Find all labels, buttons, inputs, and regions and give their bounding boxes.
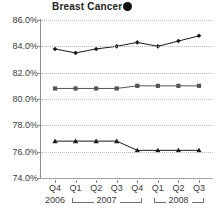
chart-container: Breast Cancer 86.0%84.0%82.0%80.0%78.0%7… [0,0,220,217]
y-axis-tick-mark [38,125,41,126]
y-axis-tick-label: 86.0% [12,15,38,25]
y-axis-tick-label: 80.0% [12,94,38,104]
x-axis-tick-label: Q1 [70,183,82,193]
x-axis-tick-label: Q3 [193,183,205,193]
year-bracket-left [72,198,94,203]
data-point-marker-square [156,84,160,88]
data-point-marker-diamond [53,47,58,52]
plot-area [41,20,213,178]
data-point-marker-square [197,84,201,88]
y-axis-tick-mark [38,73,41,74]
filled-diamond-marker-icon [123,2,132,11]
gridline [41,125,213,126]
data-point-marker-square [176,84,180,88]
y-axis-tick-label: 76.0% [12,147,38,157]
y-axis-tick-mark [38,178,41,179]
year-bracket-left [154,198,166,203]
gridline [41,99,213,100]
year-bracket-right [120,198,142,203]
x-axis-tick-mark [137,180,138,183]
data-point-marker-diamond [135,40,140,45]
x-axis-year-label: 2007 [96,195,116,205]
data-point-marker-square [94,86,98,90]
data-point-marker-square [115,86,119,90]
y-axis-tick-mark [38,46,41,47]
x-axis-year-groups: 200620072008 [0,194,220,217]
x-axis-tick-mark [96,180,97,183]
gridline [41,178,213,179]
data-point-marker-square [73,86,77,90]
data-point-marker-diamond [73,51,78,56]
chart-title: Breast Cancer [52,1,132,12]
data-point-marker-square [53,86,57,90]
y-axis-tick-label: 84.0% [12,41,38,51]
x-axis-year-label: 2006 [45,195,65,205]
x-axis-tick-label: Q3 [111,183,123,193]
gridline [41,20,213,21]
x-axis-tick-label: Q2 [90,183,102,193]
x-axis-tick-mark [117,180,118,183]
x-axis-tick-mark [178,180,179,183]
x-axis-tick-label: Q4 [131,183,143,193]
data-point-marker-square [135,84,139,88]
y-axis-tick-label: 78.0% [12,120,38,130]
data-point-marker-diamond [176,39,181,44]
x-axis-tick-label: Q4 [49,183,61,193]
year-bracket-right [192,198,204,203]
x-axis-tick-mark [199,180,200,183]
x-axis-labels: Q4Q1Q2Q3Q4Q1Q2Q3 [41,180,213,194]
data-point-marker-diamond [197,34,202,39]
y-axis-tick-label: 82.0% [12,68,38,78]
gridline [41,152,213,153]
data-point-marker-diamond [94,47,99,52]
y-axis-tick-mark [38,152,41,153]
y-axis-tick-mark [38,20,41,21]
gridline [41,73,213,74]
series-line [55,36,199,53]
y-axis-tick-mark [38,99,41,100]
y-axis-tick-label: 74.0% [12,173,38,183]
x-axis-tick-mark [158,180,159,183]
y-axis-labels: 86.0%84.0%82.0%80.0%78.0%76.0%74.0% [0,20,38,178]
x-axis-year-label: 2008 [168,195,188,205]
gridline [41,46,213,47]
x-axis-tick-mark [55,180,56,183]
x-axis-tick-label: Q1 [152,183,164,193]
x-axis-tick-mark [76,180,77,183]
chart-title-text: Breast Cancer [52,1,122,12]
x-axis-tick-label: Q2 [172,183,184,193]
